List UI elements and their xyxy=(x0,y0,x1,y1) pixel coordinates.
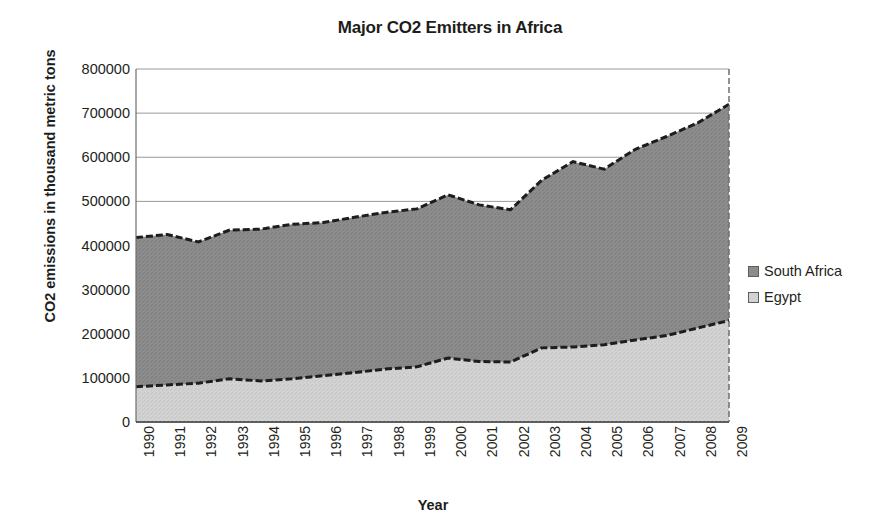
x-axis-tick-label: 1997 xyxy=(359,426,375,457)
chart-container: Major CO2 Emitters in Africa CO2 emissio… xyxy=(0,0,896,526)
x-axis-tick-label: 2009 xyxy=(734,426,750,457)
legend-swatch-icon xyxy=(748,292,759,303)
x-axis-tick-label: 1992 xyxy=(203,426,219,457)
x-axis-tick-label: 2005 xyxy=(609,426,625,457)
x-axis-tick-label: 1996 xyxy=(328,426,344,457)
legend-item[interactable]: Egypt xyxy=(748,284,888,310)
x-axis-tick-label: 2008 xyxy=(703,426,719,457)
x-axis-tick-label: 1990 xyxy=(141,426,157,457)
x-axis-tick-label: 2001 xyxy=(484,426,500,457)
x-axis-tick-label: 2003 xyxy=(547,426,563,457)
x-axis-title: Year xyxy=(136,497,730,513)
x-axis-tick-labels: 1990199119921993199419951996199719981999… xyxy=(136,426,730,496)
x-axis-tick-label: 1995 xyxy=(297,426,313,457)
legend-label: Egypt xyxy=(764,289,801,305)
x-axis-tick-label: 2006 xyxy=(640,426,656,457)
x-axis-tick-label: 1994 xyxy=(266,426,282,457)
x-axis-tick-label: 2007 xyxy=(672,426,688,457)
x-axis-tick-label: 1993 xyxy=(235,426,251,457)
legend-item[interactable]: South Africa xyxy=(748,258,888,284)
x-axis-tick-label: 1998 xyxy=(391,426,407,457)
x-axis-tick-label: 2004 xyxy=(578,426,594,457)
x-axis-tick-label: 2000 xyxy=(453,426,469,457)
x-axis-tick-label: 2002 xyxy=(516,426,532,457)
legend-label: South Africa xyxy=(764,263,842,279)
x-axis-tick-label: 1991 xyxy=(172,426,188,457)
x-axis-tick-label: 1999 xyxy=(422,426,438,457)
legend-swatch-icon xyxy=(748,266,759,277)
chart-legend: South AfricaEgypt xyxy=(748,258,888,310)
